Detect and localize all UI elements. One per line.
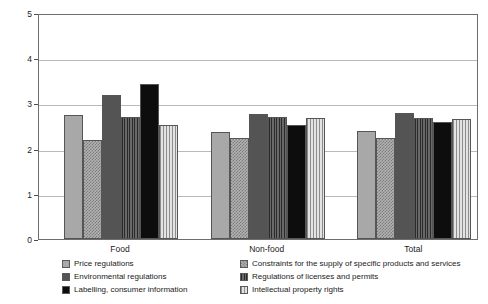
chart-legend: Price regulationsEnvironmental regulatio… (0, 258, 488, 302)
bar-chart-figure: Importance 012345 FoodNon-foodTotal Pric… (0, 0, 488, 304)
plot-area (38, 14, 478, 240)
bar (433, 122, 452, 239)
legend-item[interactable]: Regulations of licenses and permits (240, 271, 461, 282)
bar (64, 115, 83, 239)
bar (121, 117, 140, 239)
y-axis-tick-label: 3 (6, 100, 32, 108)
legend-swatch-icon (62, 273, 70, 281)
legend-column-left: Price regulationsEnvironmental regulatio… (62, 258, 187, 297)
legend-swatch-icon (62, 260, 70, 268)
bar (395, 113, 414, 239)
bar (211, 132, 230, 239)
legend-item-label: Labelling, consumer information (74, 285, 187, 294)
legend-item-label: Price regulations (74, 259, 134, 268)
bar (102, 95, 121, 239)
legend-item-label: Constraints for the supply of specific p… (252, 259, 461, 268)
bar (83, 140, 102, 239)
legend-item[interactable]: Labelling, consumer information (62, 284, 187, 295)
bar (268, 117, 287, 239)
bar (306, 118, 325, 239)
legend-item-label: Regulations of licenses and permits (252, 272, 378, 281)
y-axis-tick-label: 2 (6, 146, 32, 154)
y-axis-tick-label: 5 (6, 10, 32, 18)
bar (159, 125, 178, 239)
legend-item[interactable]: Intellectual property rights (240, 284, 461, 295)
gridline (39, 60, 477, 61)
bar (230, 138, 249, 239)
bar (249, 114, 268, 239)
bar (287, 125, 306, 239)
legend-swatch-icon (240, 286, 248, 294)
legend-column-right: Constraints for the supply of specific p… (240, 258, 461, 297)
y-axis-tick-label: 1 (6, 191, 32, 199)
x-axis-group-label: Total (373, 244, 453, 254)
y-axis-tick-label: 4 (6, 55, 32, 63)
bar (357, 131, 376, 239)
bar (414, 118, 433, 239)
legend-item[interactable]: Environmental regulations (62, 271, 187, 282)
legend-swatch-icon (62, 286, 70, 294)
legend-swatch-icon (240, 273, 248, 281)
y-axis-tick-label: 0 (6, 236, 32, 244)
legend-item-label: Intellectual property rights (252, 285, 344, 294)
y-axis-tick-mark (34, 240, 38, 241)
x-axis-group-label: Food (80, 244, 160, 254)
bar (376, 138, 395, 239)
legend-item-label: Environmental regulations (74, 272, 167, 281)
legend-item[interactable]: Price regulations (62, 258, 187, 269)
legend-item[interactable]: Constraints for the supply of specific p… (240, 258, 461, 269)
bar (452, 119, 471, 239)
bar (140, 84, 159, 239)
x-axis-group-label: Non-food (227, 244, 307, 254)
legend-swatch-icon (240, 260, 248, 268)
